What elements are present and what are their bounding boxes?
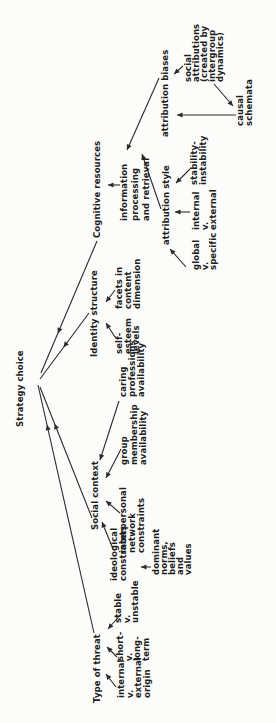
arrowhead-internal-external-origin-to-type-of-threat xyxy=(106,674,111,680)
node-social-attributions: social attributions (created by intergro… xyxy=(184,24,224,82)
diagram-canvas: Strategy choiceType of threatinternal v.… xyxy=(0,0,276,723)
node-internal-external: internal v. external xyxy=(192,189,218,230)
arrow-type-of-threat-to-strategy-choice xyxy=(38,385,94,633)
arrowhead-dominant-norms-to-ideological-constraints xyxy=(141,564,147,569)
node-strategy-choice: Strategy choice xyxy=(16,350,25,427)
arrowhead-internal-external-to-attribution-style xyxy=(175,209,181,214)
node-group-membership: group membership availability xyxy=(120,404,149,465)
node-cognitive-resources: Cognitive resources xyxy=(93,141,102,238)
node-interpersonal-network: interpersonal network constraints xyxy=(119,487,146,553)
node-short-long-term: short- v. long- term xyxy=(116,632,150,661)
arrowhead-information-processing-to-cognitive-resources xyxy=(108,182,114,187)
arrow-attribution-biases-to-information-processing xyxy=(127,78,159,150)
node-internal-external-origin: internal v. external origin xyxy=(117,657,151,698)
arrowhead-identity-structure-to-strategy-choice xyxy=(64,341,69,347)
node-dominant-norms: dominant norms, beliefs and values xyxy=(152,529,192,575)
node-self-esteem-levels: self- esteem levels xyxy=(115,318,141,354)
arrowhead-self-esteem-levels-to-identity-structure xyxy=(106,323,111,329)
arrow-social-context-to-strategy-choice xyxy=(40,387,92,518)
arrow-caring-professions-to-social-context xyxy=(100,401,119,460)
node-identity-structure: Identity structure xyxy=(90,270,99,357)
arrowhead-facets-content-dimension-to-identity-structure xyxy=(106,296,111,302)
node-information-processing: information processing and retrieval xyxy=(119,158,152,221)
diagram: Strategy choiceType of threatinternal v.… xyxy=(0,0,276,723)
node-type-of-threat: Type of threat xyxy=(93,634,102,703)
node-facets-content-dimension: facets in content dimension xyxy=(115,259,142,309)
node-attribution-biases: attribution biases xyxy=(161,50,170,137)
arrowhead-type-of-threat-to-strategy-choice xyxy=(46,425,51,431)
node-attribution-style: attribution style xyxy=(162,165,171,245)
node-social-context: Social context xyxy=(91,461,100,530)
arrowhead-caring-professions-to-social-context xyxy=(99,454,104,460)
node-global-specific: global v. specific xyxy=(192,233,218,270)
node-causal-schemata: causal schemata xyxy=(236,79,254,126)
node-stable-unstable: stable v. unstable xyxy=(114,580,140,623)
arrowhead-causal-schemata-to-attribution-biases xyxy=(177,112,183,117)
node-stability-instability: stability- instability xyxy=(190,136,207,185)
